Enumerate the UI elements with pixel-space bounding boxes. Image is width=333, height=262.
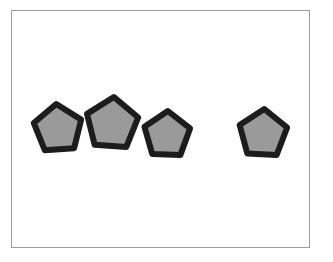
- picture-frame: [11, 10, 310, 248]
- scene-root: [0, 0, 333, 262]
